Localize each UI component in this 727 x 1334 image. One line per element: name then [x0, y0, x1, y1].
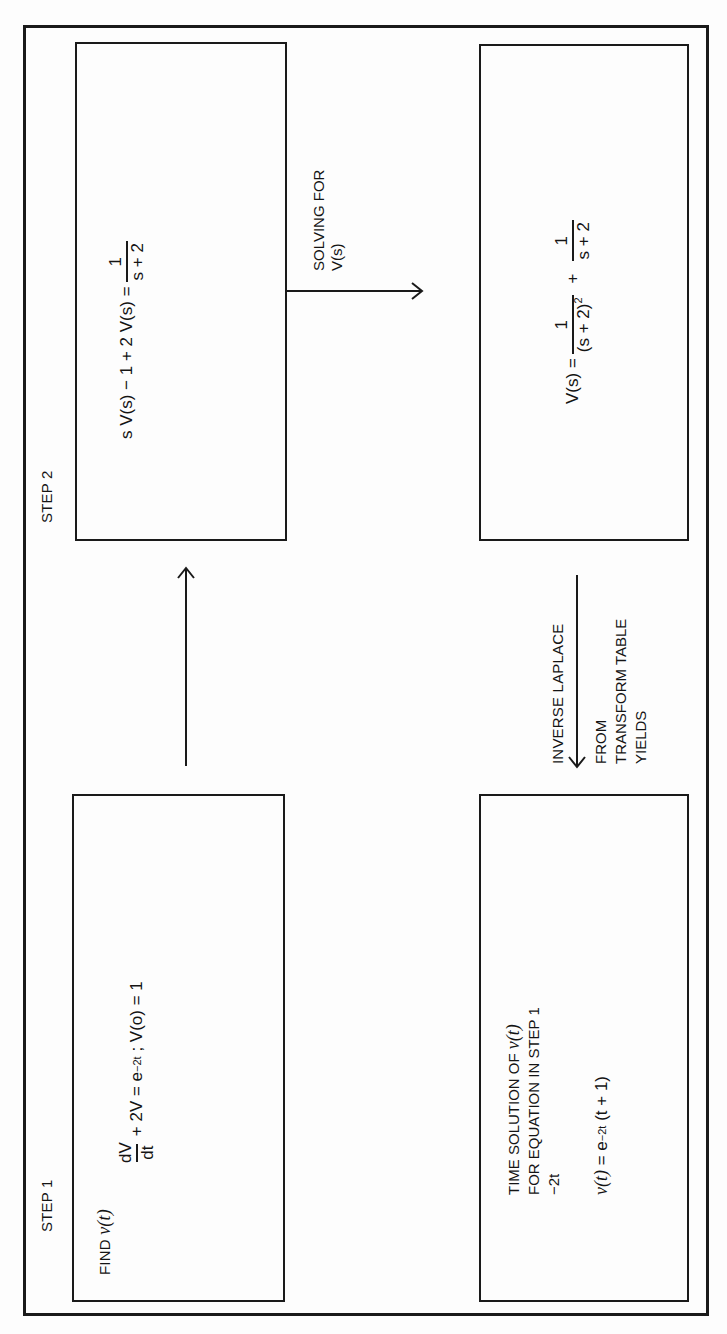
step1-label: STEP 1 [38, 1179, 55, 1232]
laplace-solution-diagram: STEP 1 STEP 2 FIND v(t) dV dt + 2V = e−2… [0, 0, 727, 1334]
step2-label: STEP 2 [38, 470, 55, 523]
vs-partial-fraction-equation: V(s) = 1 (s + 2)2 + 1 s + 2 [553, 216, 593, 404]
vs-fraction-1: 1 (s + 2)2 [553, 295, 593, 354]
arrow-down-icon [286, 281, 426, 301]
inverse-laplace-label: INVERSE LAPLACE [549, 623, 566, 764]
step2-fraction: 1 s + 2 [107, 241, 147, 282]
differential-equation: dV dt + 2V = e−2t ; V(o) = 1 [117, 981, 157, 1169]
arrow-right-icon [176, 564, 196, 768]
step1-box: FIND v(t) dV dt + 2V = e−2t ; V(o) = 1 [72, 794, 285, 1302]
solution-description: TIME SOLUTION OF v(t) FOR EQUATION IN ST… [503, 1007, 564, 1195]
dv-dt-fraction: dV dt [117, 1140, 157, 1165]
v-of-t: v(t) [94, 1209, 114, 1235]
step2-box: s V(s) − 1 + 2 V(s) = 1 s + 2 [75, 42, 287, 541]
arrow-left-icon [567, 573, 587, 769]
time-solution-equation: v(t) = e−2t (t + 1) [591, 1076, 612, 1195]
solution-box: TIME SOLUTION OF v(t) FOR EQUATION IN ST… [479, 794, 689, 1302]
find-label: FIND v(t) [94, 1209, 115, 1275]
transform-table-label: FROM TRANSFORM TABLE YIELDS [591, 619, 651, 764]
find-prefix: FIND [96, 1235, 113, 1275]
vs-fraction-2: 1 s + 2 [553, 220, 593, 261]
solving-for-label: SOLVING FOR V(s) [310, 170, 346, 271]
laplace-transformed-equation: s V(s) − 1 + 2 V(s) = 1 s + 2 [107, 237, 147, 439]
vs-solution-box: V(s) = 1 (s + 2)2 + 1 s + 2 [479, 44, 689, 541]
